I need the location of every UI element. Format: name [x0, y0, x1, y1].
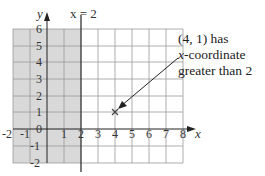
- x-axis-label: x: [194, 126, 201, 141]
- callout-line-3: greater than 2: [178, 63, 252, 79]
- coordinate-diagram: x = 2 y x -2 -1 0 1 2 3 4 5 6 7 8 6 5 4 …: [0, 0, 265, 176]
- svg-text:-1: -1: [20, 127, 30, 141]
- svg-text:2: 2: [78, 127, 84, 141]
- callout-line-1: (4, 1) has: [178, 31, 252, 47]
- callout-arrow: [121, 58, 178, 106]
- svg-text:0: 0: [36, 122, 42, 136]
- svg-text:1: 1: [61, 127, 67, 141]
- svg-text:3: 3: [36, 72, 42, 86]
- callout-text: (4, 1) has x-coordinate greater than 2: [178, 31, 252, 79]
- svg-text:7: 7: [163, 127, 169, 141]
- y-axis-arrow-icon: [44, 12, 50, 21]
- svg-text:-1: -1: [30, 139, 40, 153]
- svg-text:-2: -2: [2, 127, 12, 141]
- vertical-line-label: x = 2: [70, 6, 97, 21]
- svg-text:5: 5: [36, 39, 42, 53]
- svg-text:5: 5: [129, 127, 135, 141]
- svg-text:2: 2: [36, 89, 42, 103]
- svg-text:8: 8: [180, 127, 186, 141]
- svg-text:4: 4: [112, 127, 118, 141]
- svg-text:1: 1: [36, 105, 42, 119]
- svg-text:3: 3: [95, 127, 101, 141]
- callout-line-2: x-coordinate: [178, 47, 252, 63]
- y-axis-label: y: [35, 6, 43, 21]
- callout-line-2-rest: -coordinate: [184, 47, 245, 62]
- svg-text:4: 4: [36, 55, 42, 69]
- svg-text:6: 6: [146, 127, 152, 141]
- svg-text:6: 6: [36, 22, 42, 36]
- svg-text:-2: -2: [30, 156, 40, 170]
